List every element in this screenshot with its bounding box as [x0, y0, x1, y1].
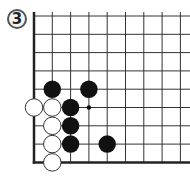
white-stone — [25, 99, 43, 117]
white-stone — [44, 99, 62, 117]
go-board — [0, 0, 190, 176]
black-stone — [62, 99, 80, 117]
black-stone — [62, 117, 80, 135]
white-stone — [44, 154, 62, 172]
black-stone — [44, 80, 62, 98]
black-stone — [98, 135, 116, 153]
black-stone — [62, 135, 80, 153]
point-marker-dot — [87, 105, 91, 109]
black-stone — [80, 80, 98, 98]
white-stone — [44, 135, 62, 153]
white-stone — [44, 117, 62, 135]
